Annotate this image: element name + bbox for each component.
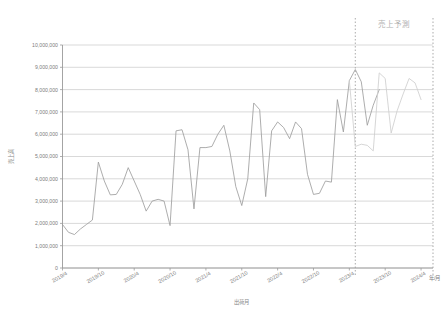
y-axis-tick-label: 9,000,000 [35,64,58,70]
x-axis-unit-label: 年/月 [429,274,441,282]
x-axis-tick-label: 2020/4 [123,270,140,283]
forecast-dividers-group [355,18,433,277]
y-axis-tick-label: 8,000,000 [35,87,58,93]
x-axis-tick-label: 2022/4 [266,270,283,283]
x-axis-title: 出荷月 [234,298,249,306]
y-axis-tick-label: 3,000,000 [35,198,58,204]
sales-forecast-chart: 01,000,0002,000,0003,000,0004,000,0005,0… [0,0,441,324]
x-axis-tick-label: 2021/4 [194,270,211,283]
y-axis-tick-label: 0 [55,265,58,271]
y-axis-tick-label: 4,000,000 [35,176,58,182]
y-axis-title: 売上高 [7,148,15,164]
x-axis-tick-label: 2021/10 [229,269,249,284]
x-axis-tick-label: 2022/10 [301,269,321,284]
y-axis-tick-label: 7,000,000 [35,109,58,115]
chart-canvas: 01,000,0002,000,0003,000,0004,000,0005,0… [0,0,441,324]
x-axis-tick-labels-group: 2019/42019/102020/42020/102021/42021/102… [51,268,427,284]
x-axis-tick-label: 2023/4 [338,270,355,283]
y-axis-tick-label: 10,000,000 [32,42,58,48]
forecast-region-caption: 売上予測 [378,19,410,29]
series-line-actual [63,70,380,235]
x-axis-tick-label: 2019/10 [85,269,105,284]
y-axis-tick-label: 6,000,000 [35,131,58,137]
x-axis-tick-label: 2023/10 [372,269,392,284]
data-series-group [63,70,422,235]
x-axis-tick-label: 2019/4 [51,270,68,283]
y-axis-tick-label: 2,000,000 [35,220,58,226]
y-axis-tick-label: 1,000,000 [35,243,58,249]
gridlines-group [63,45,434,268]
x-axis-tick-label: 2024/4 [409,270,426,283]
y-axis-tick-label: 5,000,000 [35,153,58,159]
y-axis-tick-labels-group: 01,000,0002,000,0003,000,0004,000,0005,0… [32,42,62,271]
x-axis-tick-label: 2020/10 [157,269,177,284]
